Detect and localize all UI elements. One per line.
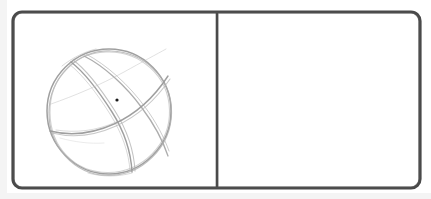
right-panel[interactable] [219,12,419,188]
left-panel[interactable] [14,12,215,188]
paper-edge-shade-left [0,0,7,199]
paper-edge-shade-bottom [0,193,431,199]
sketch-canvas [0,0,431,199]
